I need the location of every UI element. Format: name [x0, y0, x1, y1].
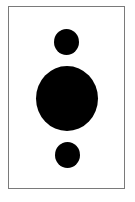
center-large-circle	[36, 66, 98, 131]
top-small-circle	[54, 29, 79, 55]
bottom-small-circle	[55, 142, 80, 168]
